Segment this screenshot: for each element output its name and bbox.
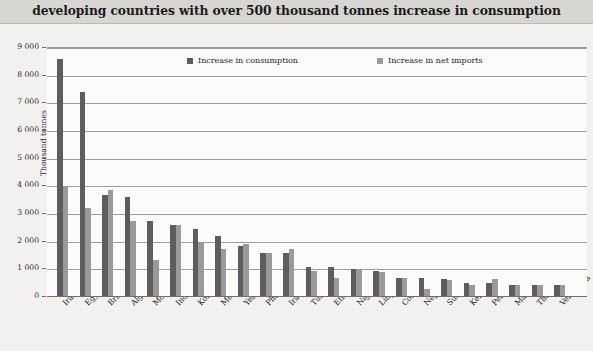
- bar-imports: [492, 279, 498, 297]
- plot-area: Thousand tonnes Increase in consumptionI…: [47, 47, 587, 297]
- bar-imports: [153, 260, 159, 297]
- bars-layer: [47, 48, 587, 298]
- bar-group: [441, 279, 452, 297]
- y-axis-tick-mark: [42, 268, 46, 269]
- y-axis-tick-label: 9 000: [0, 42, 39, 51]
- bar-group: [260, 253, 271, 297]
- y-axis-tick-mark: [42, 213, 46, 214]
- bar-imports: [334, 278, 340, 297]
- bar-imports: [198, 242, 204, 297]
- bar-group: [351, 269, 362, 297]
- bar-group: [396, 278, 407, 297]
- bar-group: [238, 244, 249, 297]
- bar-group: [147, 221, 158, 297]
- bar-group: [193, 229, 204, 297]
- y-axis-tick-label: 4 000: [0, 180, 39, 189]
- bar-imports: [130, 221, 136, 297]
- y-axis-tick-mark: [42, 241, 46, 242]
- bar-group: [102, 190, 113, 297]
- y-axis-tick-mark: [42, 296, 46, 297]
- bar-imports: [447, 280, 453, 297]
- x-axis-baseline: [47, 296, 587, 297]
- y-axis-tick-label: 5 000: [0, 153, 39, 162]
- title-band: developing countries with over 500 thous…: [0, 0, 593, 24]
- bar-group: [215, 236, 226, 297]
- y-axis-tick-mark: [42, 47, 46, 48]
- bar-group: [328, 267, 339, 297]
- bar-imports: [85, 208, 91, 297]
- y-axis-tick-mark: [42, 102, 46, 103]
- bar-imports: [221, 249, 227, 297]
- bar-imports: [243, 244, 249, 297]
- bar-group: [80, 92, 91, 297]
- bar-group: [464, 283, 475, 297]
- bar-group: [486, 279, 497, 297]
- bar-group: [373, 271, 384, 297]
- bar-group: [306, 267, 317, 297]
- bar-imports: [266, 253, 272, 297]
- y-axis-tick-mark: [42, 75, 46, 76]
- y-axis-tick-label: 2 000: [0, 236, 39, 245]
- bar-imports: [379, 272, 385, 297]
- bar-group: [283, 249, 294, 297]
- y-axis-tick-label: 8 000: [0, 70, 39, 79]
- bar-imports: [176, 225, 182, 297]
- y-axis-tick-label: 3 000: [0, 208, 39, 217]
- chart-page: developing countries with over 500 thous…: [0, 0, 593, 351]
- y-axis-tick-label: 6 000: [0, 125, 39, 134]
- bar-imports: [108, 190, 114, 297]
- bar-imports: [311, 271, 317, 297]
- y-axis-tick-label: 0: [0, 291, 39, 300]
- y-axis-tick-label: 1 000: [0, 263, 39, 272]
- y-axis-tick-mark: [42, 185, 46, 186]
- bar-group: [57, 59, 68, 297]
- bar-imports: [63, 186, 69, 297]
- bar-imports: [356, 269, 362, 297]
- bar-imports: [402, 278, 408, 297]
- page-title: developing countries with over 500 thous…: [0, 3, 593, 18]
- bar-imports: [289, 249, 295, 297]
- bar-group: [419, 278, 430, 297]
- bar-group: [125, 197, 136, 297]
- y-axis-tick-label: 7 000: [0, 97, 39, 106]
- bar-group: [170, 225, 181, 297]
